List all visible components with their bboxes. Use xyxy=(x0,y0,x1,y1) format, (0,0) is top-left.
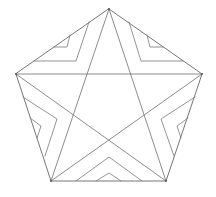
pentagram-edge-1 xyxy=(16,74,166,181)
pentagram-edge-0 xyxy=(109,9,166,181)
chevron-bottom-outer xyxy=(76,157,142,181)
vertex-dot-0 xyxy=(108,8,110,10)
chevron-bottom-inner xyxy=(96,173,121,181)
chevron-right-outer xyxy=(161,97,195,156)
chevron-top-left-inner xyxy=(54,35,70,47)
pentagon-star-diagram xyxy=(0,0,216,197)
diagram-canvas xyxy=(0,0,216,197)
chevron-patterns xyxy=(23,22,195,181)
vertex-dot-4 xyxy=(15,73,17,75)
vertex-dot-2 xyxy=(165,180,167,182)
vertex-dot-3 xyxy=(50,180,52,182)
pentagram-edge-4 xyxy=(51,9,109,181)
vertex-dot-1 xyxy=(201,73,203,75)
pentagram-edge-3 xyxy=(51,74,202,181)
